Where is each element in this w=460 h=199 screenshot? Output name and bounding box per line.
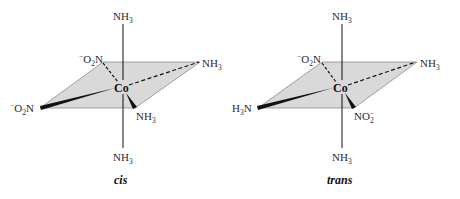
- cis-caption: cis: [114, 173, 128, 187]
- trans-caption: trans: [327, 173, 353, 187]
- octahedral-isomers-diagram: Co NH3 NH3 −O2N NH3 −O2N NH3 cis Co NH3 …: [0, 0, 460, 199]
- cis-ligand-front-left: −O2N: [10, 101, 34, 117]
- trans-ligand-front-right: NO2−: [354, 109, 374, 125]
- cis-ligand-bottom: NH3: [113, 151, 133, 166]
- trans-ligand-back-right: NH3: [420, 57, 440, 72]
- cis-center-atom: Co: [114, 81, 129, 95]
- cis-isomer: Co NH3 NH3 −O2N NH3 −O2N NH3 cis: [10, 10, 222, 187]
- trans-ligand-front-left: H3N: [232, 102, 252, 117]
- cis-ligand-top: NH3: [113, 10, 133, 25]
- trans-ligand-bottom: NH3: [332, 151, 352, 166]
- trans-ligand-top: NH3: [332, 10, 352, 25]
- cis-ligand-back-right: NH3: [202, 57, 222, 72]
- trans-center-atom: Co: [333, 81, 348, 95]
- cis-ligand-front-right: NH3: [136, 110, 156, 125]
- trans-isomer: Co NH3 NH3 −O2N NH3 H3N NO2− trans: [232, 10, 440, 187]
